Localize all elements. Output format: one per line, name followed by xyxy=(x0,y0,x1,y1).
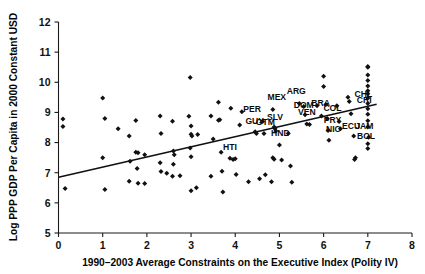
x-tick-label: 3 xyxy=(188,239,194,251)
y-tick-label: 5 xyxy=(45,227,51,239)
point-label-arg: ARG xyxy=(287,86,306,96)
x-tick-label: 2 xyxy=(144,239,150,251)
scatter-chart-figure: MEXARGDOMBRACOLVENPRYCHLCRINICECUJAMBOLP… xyxy=(0,0,425,274)
point-label-bol: BOL xyxy=(357,131,375,141)
x-tick-label: 6 xyxy=(321,239,327,251)
point-label-hnd: HND xyxy=(271,128,290,138)
chart-canvas: MEXARGDOMBRACOLVENPRYCHLCRINICECUJAMBOLP… xyxy=(0,0,425,274)
y-tick-label: 8 xyxy=(45,136,51,148)
y-tick-label: 9 xyxy=(45,106,51,118)
x-tick-label: 7 xyxy=(365,239,371,251)
y-axis-title: Log PPP GDP Per Capita in 2000 Constant … xyxy=(8,13,19,241)
y-tick-label: 12 xyxy=(39,16,51,28)
y-tick-label: 11 xyxy=(39,46,50,58)
y-tick-label: 6 xyxy=(45,197,51,209)
x-tick-label: 1 xyxy=(100,239,106,251)
x-tick-label: 0 xyxy=(56,239,62,251)
y-tick-label: 7 xyxy=(45,167,51,179)
x-tick-label: 5 xyxy=(277,239,283,251)
y-tick-label: 10 xyxy=(39,76,51,88)
point-label-ven: VEN xyxy=(298,107,316,117)
x-tick-label: 8 xyxy=(409,239,415,251)
point-label-hti: HTI xyxy=(223,142,237,152)
point-label-nic: NIC xyxy=(326,124,341,134)
point-label-col: COL xyxy=(323,103,341,113)
point-label-cri: CRI xyxy=(357,95,372,105)
x-axis-title: 1990–2003 Average Constraints on the Exe… xyxy=(82,257,398,268)
point-label-gtm: GTM xyxy=(256,117,275,127)
point-label-mex: MEX xyxy=(267,92,286,102)
x-tick-label: 4 xyxy=(232,239,238,251)
point-label-per: PER xyxy=(243,104,261,114)
point-label-jam: JAM xyxy=(355,121,373,131)
